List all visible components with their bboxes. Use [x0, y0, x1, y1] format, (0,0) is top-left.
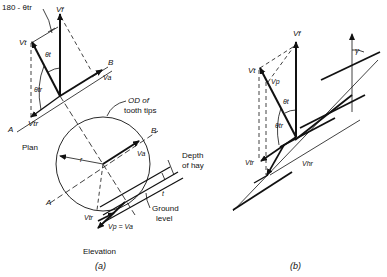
- vtr-b-label: Vtr: [245, 159, 255, 166]
- od-label-line2: tooth tips: [124, 106, 156, 115]
- angle-180-label: 180 - θtr: [2, 3, 32, 12]
- plan-vector-diagram: [17, 9, 135, 215]
- depth-label-line2: of hay: [182, 161, 204, 170]
- theta-t-label: θt: [45, 51, 52, 58]
- va-elevation-label: Va: [137, 150, 145, 157]
- diagram-canvas: 180 - θtr Vf Vt θt θtr Va B Vtr A OD of …: [0, 0, 387, 277]
- vtr-elevation-label: Vtr: [84, 214, 94, 221]
- elevation-label: Elevation: [83, 247, 116, 256]
- vtr-label: Vtr: [28, 119, 39, 128]
- t-label: t: [162, 190, 165, 197]
- axis-a-label: A: [7, 125, 13, 134]
- va-label: Va: [103, 74, 111, 81]
- axis-a-elevation-label: A: [45, 198, 51, 207]
- axis-b-label: B: [108, 58, 114, 67]
- radius-label: r: [80, 156, 83, 163]
- theta-t-b-label: θt: [283, 98, 290, 105]
- va-elevation-vector: [103, 141, 139, 164]
- vhr-b-label: Vhr: [302, 160, 314, 167]
- theta-tr-b-label: θtr: [275, 122, 284, 129]
- depth-label-line1: Depth: [182, 151, 203, 160]
- figure-b-diagram: [233, 34, 380, 211]
- vf-label: Vf: [56, 5, 64, 14]
- vf-b-label: Vf: [293, 29, 301, 38]
- vp-b-label: Vp: [271, 78, 280, 86]
- axis-b-elevation-label: B: [151, 126, 157, 135]
- od-label-line1: OD of: [128, 96, 150, 105]
- caption-b: (b): [290, 261, 301, 271]
- vt-label: Vt: [19, 38, 27, 47]
- va-vector: [60, 70, 102, 96]
- vt-b-label: Vt: [248, 66, 256, 75]
- caption-a: (a): [95, 261, 106, 271]
- theta-tr-label: θtr: [34, 86, 43, 93]
- ground-label-line2: level: [156, 214, 173, 223]
- vp-va-label: Vp = Va: [108, 223, 133, 231]
- ground-label-line1: Ground: [152, 204, 179, 213]
- plan-label: Plan: [22, 143, 38, 152]
